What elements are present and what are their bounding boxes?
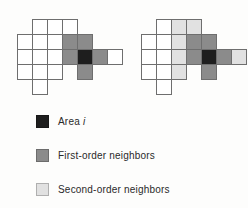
grid-cell-empty bbox=[156, 79, 172, 95]
grid-cell-first-order bbox=[201, 34, 217, 50]
grid-cell-first-order bbox=[201, 64, 217, 80]
grid-cell-area-i bbox=[201, 49, 217, 65]
grid-cell-empty bbox=[17, 49, 33, 65]
grid-cell-empty bbox=[107, 49, 123, 65]
grid-cell-empty bbox=[62, 19, 78, 35]
grid-cell-empty bbox=[141, 64, 157, 80]
grid-cell-empty bbox=[32, 79, 48, 95]
grid-cell-first-order bbox=[186, 49, 202, 65]
legend-label-text: First-order neighbors bbox=[58, 150, 155, 161]
grid-cell-first-order bbox=[77, 64, 93, 80]
grid-cell-first-order bbox=[62, 34, 78, 50]
legend-item-first-order: First-order neighbors bbox=[36, 149, 170, 162]
grid-cell-first-order bbox=[77, 34, 93, 50]
legend-label-italic: i bbox=[83, 116, 85, 127]
grid-cell-empty bbox=[17, 34, 33, 50]
grid-cell-empty bbox=[47, 34, 63, 50]
grid-cell-first-order bbox=[186, 34, 202, 50]
grid-cell-empty bbox=[156, 34, 172, 50]
grid-cell-empty bbox=[156, 64, 172, 80]
legend: Area iFirst-order neighborsSecond-order … bbox=[36, 115, 170, 208]
neighbors-diagram: Area iFirst-order neighborsSecond-order … bbox=[0, 0, 248, 208]
grid-cell-empty bbox=[32, 64, 48, 80]
grid-cell-second-order bbox=[231, 49, 247, 65]
legend-swatch-first-order bbox=[36, 149, 49, 162]
legend-label: Area i bbox=[58, 115, 85, 128]
grid-cell-first-order bbox=[92, 49, 108, 65]
grid-cell-empty bbox=[156, 49, 172, 65]
legend-item-area-i: Area i bbox=[36, 115, 170, 128]
grid-cell-second-order bbox=[171, 49, 187, 65]
grid-cell-empty bbox=[32, 49, 48, 65]
grid-cell-empty bbox=[141, 34, 157, 50]
grid-cell-second-order bbox=[171, 34, 187, 50]
legend-item-second-order: Second-order neighbors bbox=[36, 183, 170, 196]
grid-cell-second-order bbox=[186, 19, 202, 35]
second-order-grid bbox=[141, 19, 247, 95]
grid-cell-first-order bbox=[62, 49, 78, 65]
legend-swatch-area-i bbox=[36, 115, 49, 128]
legend-label-text: Second-order neighbors bbox=[58, 184, 170, 195]
grid-cell-empty bbox=[47, 64, 63, 80]
grid-cell-first-order bbox=[216, 49, 232, 65]
grid-cell-empty bbox=[32, 19, 48, 35]
grid-cell-second-order bbox=[171, 64, 187, 80]
first-order-grid bbox=[17, 19, 123, 95]
grid-cell-empty bbox=[47, 49, 63, 65]
grid-cell-empty bbox=[47, 19, 63, 35]
legend-swatch-second-order bbox=[36, 183, 49, 196]
grid-cell-empty bbox=[156, 19, 172, 35]
grid-cell-empty bbox=[141, 49, 157, 65]
grid-cell-empty bbox=[17, 64, 33, 80]
grid-cell-second-order bbox=[171, 19, 187, 35]
legend-label: First-order neighbors bbox=[58, 149, 155, 162]
legend-label: Second-order neighbors bbox=[58, 183, 170, 196]
legend-label-text: Area bbox=[58, 116, 83, 127]
grid-cell-area-i bbox=[77, 49, 93, 65]
grid-cell-empty bbox=[32, 34, 48, 50]
